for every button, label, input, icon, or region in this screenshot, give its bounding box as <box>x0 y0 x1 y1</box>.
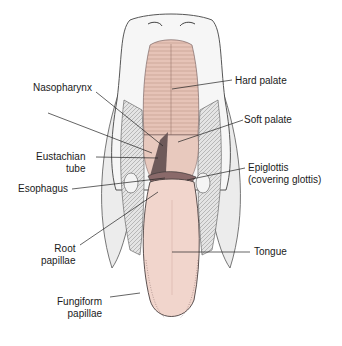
tongue <box>143 179 199 317</box>
label-esophagus: Esophagus <box>18 183 68 195</box>
label-root-papillae: Root papillae <box>41 243 75 267</box>
label-soft-palate: Soft palate <box>244 114 292 126</box>
label-fungiform-papillae: Fungiform papillae <box>57 296 102 320</box>
label-nasopharynx: Nasopharynx <box>33 82 92 94</box>
label-eustachian-tube: Eustachian tube <box>34 151 85 175</box>
label-hard-palate: Hard palate <box>235 75 287 87</box>
label-tongue: Tongue <box>254 246 287 258</box>
label-epiglottis: Epiglottis (covering glottis) <box>248 162 321 186</box>
